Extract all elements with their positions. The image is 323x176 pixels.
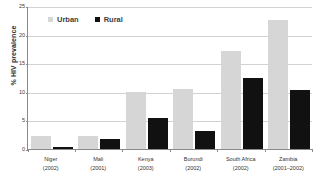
bar-urban-burundi (173, 89, 193, 149)
bar-group (28, 7, 76, 149)
bar-rural-niger (53, 147, 73, 149)
bar-group (266, 7, 314, 149)
bar-urban-kenya (126, 92, 146, 149)
x-category-name: Burundi (184, 156, 203, 162)
x-category-year: (2001–2002) (265, 164, 313, 173)
x-category-label: Burundi(2002) (170, 155, 218, 172)
y-tick-label: 0 (22, 147, 25, 153)
x-category-name: Niger (44, 156, 57, 162)
x-tick-mark (217, 149, 218, 152)
bar-urban-south-africa (221, 51, 241, 149)
bar-urban-niger (31, 136, 51, 149)
x-category-year: (2002) (217, 164, 265, 173)
x-tick-mark (312, 149, 313, 152)
bar-rural-kenya (148, 118, 168, 149)
x-category-year: (2003) (122, 164, 170, 173)
hiv-prevalence-bar-chart: % HIV prevalence Urban Rural 0510152025 … (0, 0, 323, 176)
x-tick-mark (122, 149, 123, 152)
bar-rural-mali (100, 139, 120, 149)
x-category-name: Mali (93, 156, 103, 162)
x-tick-mark (265, 149, 266, 152)
y-tick-label: 25 (19, 4, 25, 10)
x-tick-mark (170, 149, 171, 152)
bar-rural-burundi (195, 131, 215, 149)
x-tick-mark (75, 149, 76, 152)
bar-group (123, 7, 171, 149)
bar-rural-south-africa (243, 78, 263, 149)
y-tick-label: 20 (19, 33, 25, 39)
bar-urban-mali (78, 136, 98, 149)
x-category-year: (2002) (170, 164, 218, 173)
x-category-year: (2002) (27, 164, 75, 173)
x-category-label: Zambia(2001–2002) (265, 155, 313, 172)
x-tick-mark-origin (28, 149, 29, 152)
bar-series-container (28, 7, 312, 149)
bar-group (171, 7, 219, 149)
y-axis-title: % HIV prevalence (10, 1, 17, 111)
x-category-year: (2001) (75, 164, 123, 173)
bar-rural-zambia (290, 90, 310, 149)
bar-group (218, 7, 266, 149)
y-tick-label: 15 (19, 61, 25, 67)
x-category-label: Niger(2002) (27, 155, 75, 172)
x-category-name: South Africa (226, 156, 256, 162)
x-category-label: South Africa(2002) (217, 155, 265, 172)
y-tick-label: 5 (22, 119, 25, 125)
x-category-label: Mali(2001) (75, 155, 123, 172)
x-category-name: Kenya (138, 156, 154, 162)
bar-group (76, 7, 124, 149)
y-tick-label: 10 (19, 90, 25, 96)
x-category-label: Kenya(2003) (122, 155, 170, 172)
bar-urban-zambia (268, 20, 288, 149)
plot-area: 0510152025 (27, 7, 312, 150)
x-category-name: Zambia (279, 156, 297, 162)
